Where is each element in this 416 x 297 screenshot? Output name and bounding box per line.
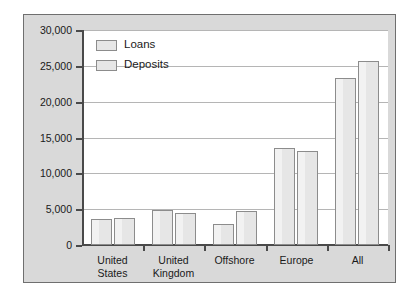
chart-legend: Loans Deposits [96, 36, 206, 76]
x-axis-tick [143, 245, 145, 251]
legend-swatch-icon-loans [96, 40, 117, 51]
bar-loans-united-kingdom [152, 210, 173, 245]
bar-highlight [275, 149, 282, 244]
bar-loans-offshore [213, 224, 234, 245]
legend-item-loans: Loans [96, 36, 206, 54]
y-axis-label: 30,000 [2, 25, 72, 36]
bar-highlight [237, 212, 244, 244]
y-axis-tick [76, 102, 82, 104]
gridline [82, 30, 388, 31]
bar-deposits-united-states [114, 218, 135, 245]
bar-loans-united-states [91, 219, 112, 245]
y-axis-tick [76, 30, 82, 32]
bar-chart: 05,00010,00015,00020,00025,00030,000 Uni… [0, 0, 416, 297]
category-label-line: United [82, 254, 143, 267]
x-axis-tick [327, 245, 329, 251]
y-axis-label: 25,000 [2, 61, 72, 72]
legend-label-loans: Loans [124, 39, 155, 51]
bar-highlight [176, 214, 183, 244]
bar-highlight [298, 152, 305, 244]
bar-deposits-all [358, 61, 379, 245]
category-label-line: United [143, 254, 204, 267]
x-axis-category-label: UnitedStates [82, 254, 143, 279]
y-axis-label: 5,000 [2, 204, 72, 215]
bar-deposits-europe [297, 151, 318, 245]
legend-swatch-icon-deposits [96, 60, 117, 71]
category-label-line: Europe [266, 254, 327, 267]
bar-loans-all [335, 78, 356, 245]
y-axis-tick [76, 209, 82, 211]
bar-highlight [336, 79, 343, 244]
y-axis-tick [76, 245, 82, 247]
y-axis-tick [76, 138, 82, 140]
y-axis-line [82, 30, 84, 245]
x-axis-category-label: All [327, 254, 388, 267]
y-axis-label: 10,000 [2, 168, 72, 179]
category-label-line: States [82, 267, 143, 280]
category-label-line: Offshore [204, 254, 265, 267]
bar-loans-europe [274, 148, 295, 245]
x-axis-tick [204, 245, 206, 251]
legend-item-deposits: Deposits [96, 56, 206, 74]
bar-deposits-united-kingdom [175, 213, 196, 245]
x-axis-tick [388, 245, 390, 251]
bar-highlight [153, 211, 160, 244]
x-axis-tick [266, 245, 268, 251]
y-axis-label: 0 [2, 240, 72, 251]
x-axis-category-label: UnitedKingdom [143, 254, 204, 279]
y-axis-tick [76, 66, 82, 68]
y-axis-label: 15,000 [2, 133, 72, 144]
y-axis-tick [76, 173, 82, 175]
category-label-line: All [327, 254, 388, 267]
bar-highlight [359, 62, 366, 244]
legend-label-deposits: Deposits [124, 59, 169, 71]
y-axis-label: 20,000 [2, 97, 72, 108]
bar-highlight [115, 219, 122, 244]
x-axis-category-label: Europe [266, 254, 327, 267]
category-label-line: Kingdom [143, 267, 204, 280]
bar-highlight [214, 225, 221, 244]
x-axis-category-label: Offshore [204, 254, 265, 267]
bar-highlight [92, 220, 99, 244]
bar-deposits-offshore [236, 211, 257, 245]
